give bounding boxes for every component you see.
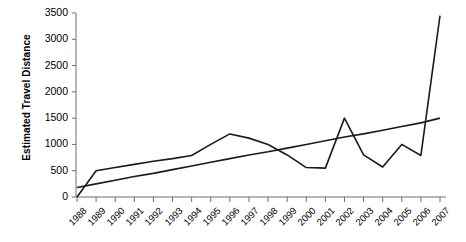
chart-container: Estimated Travel Distance 05001000150020…	[0, 0, 466, 242]
x-axis-tick-labels: 1988198919901991199219931994199519961997…	[0, 0, 466, 242]
